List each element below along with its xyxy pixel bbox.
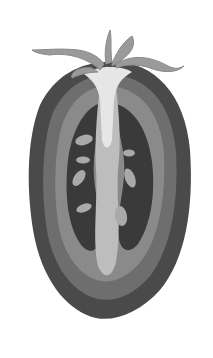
tomato-illustration [0,0,213,358]
